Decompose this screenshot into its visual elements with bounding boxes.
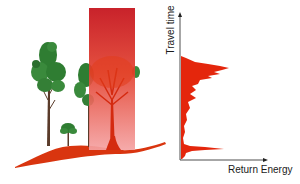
y-axis-arrow-icon xyxy=(178,12,182,17)
small-tree xyxy=(60,123,77,146)
waveform-area xyxy=(181,56,229,159)
lidar-waveform-diagram xyxy=(0,0,300,184)
x-axis-arrow-icon xyxy=(263,158,268,162)
x-axis-label: Return Energy xyxy=(228,164,292,175)
y-axis-label: Travel time xyxy=(165,5,176,54)
